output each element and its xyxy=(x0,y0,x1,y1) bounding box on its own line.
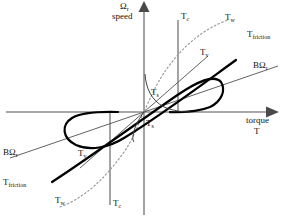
bomega-label-left: BΩr xyxy=(3,148,18,157)
axes-group xyxy=(6,1,279,215)
y-axis-symbol-label: Ωr xyxy=(120,2,129,11)
bomega-label-right: BΩr xyxy=(253,61,268,70)
y-axis-arrowhead xyxy=(139,1,150,12)
ts-label-lower: Ts xyxy=(146,119,154,128)
tc-label-lower: Tc xyxy=(113,199,121,208)
x-axis-symbol-label: T xyxy=(254,127,260,136)
y-axis-omega-glyph: Ω xyxy=(120,1,127,11)
tw-label-upper: Tw xyxy=(225,13,235,22)
tv-label-upper: Tv xyxy=(200,48,209,57)
tfriction-curve-left xyxy=(65,60,236,148)
y-axis-caption-label: speed xyxy=(112,12,133,21)
tfriction-label-left: Tfriction xyxy=(3,178,26,187)
tfriction-label-right: Tfriction xyxy=(247,30,270,39)
tc-label-upper: Tc xyxy=(181,12,189,21)
ts-label-upper: Ts xyxy=(151,88,159,97)
tw-label-lower: Tw xyxy=(55,196,65,205)
plot-canvas xyxy=(0,0,285,217)
x-axis-caption-label: torque xyxy=(246,116,269,125)
friction-torque-speed-figure: Ωr speed torque T Tc Tc Tw Tw Tv Tv Ts T… xyxy=(0,0,285,217)
tv-label-lower: Tv xyxy=(78,149,87,158)
